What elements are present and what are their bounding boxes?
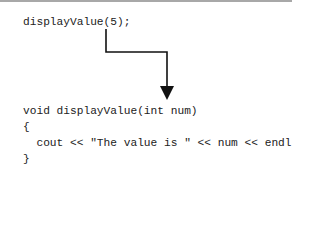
arrowhead-icon bbox=[160, 86, 174, 100]
function-body-line: cout << "The value is " << num << endl; bbox=[23, 135, 292, 151]
function-open-brace: { bbox=[23, 119, 30, 135]
function-close-brace: } bbox=[23, 151, 30, 166]
function-header-line: void displayValue(int num) bbox=[23, 103, 198, 119]
